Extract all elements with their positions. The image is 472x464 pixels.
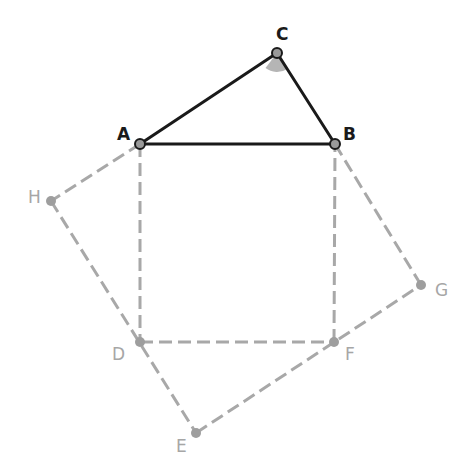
point-h[interactable] bbox=[46, 196, 56, 206]
label-f: F bbox=[345, 344, 355, 364]
label-a: A bbox=[117, 124, 131, 144]
label-b: B bbox=[343, 124, 356, 144]
segment-ca bbox=[140, 53, 277, 144]
segment-bc bbox=[277, 53, 335, 144]
label-c: C bbox=[276, 24, 288, 44]
segment-eg bbox=[196, 285, 421, 433]
geometry-diagram: A B C H D E F G bbox=[0, 0, 472, 464]
label-e: E bbox=[176, 436, 187, 456]
segment-fb bbox=[334, 144, 335, 342]
label-h: H bbox=[28, 187, 41, 207]
label-d: D bbox=[112, 344, 125, 364]
segment-ah bbox=[51, 144, 140, 201]
label-g: G bbox=[435, 280, 448, 300]
point-f[interactable] bbox=[329, 337, 339, 347]
point-b[interactable] bbox=[330, 139, 340, 149]
point-c[interactable] bbox=[272, 48, 282, 58]
segment-he bbox=[51, 201, 196, 433]
diagram-canvas: A B C H D E F G bbox=[0, 0, 472, 464]
segment-gb bbox=[335, 144, 421, 285]
point-a[interactable] bbox=[135, 139, 145, 149]
point-e[interactable] bbox=[191, 428, 201, 438]
point-g[interactable] bbox=[416, 280, 426, 290]
point-d[interactable] bbox=[135, 337, 145, 347]
